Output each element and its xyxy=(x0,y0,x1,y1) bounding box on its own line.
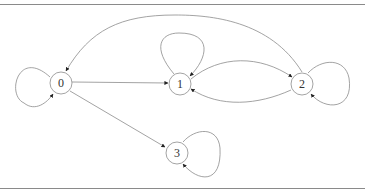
edge-0-0 xyxy=(16,68,53,107)
node-1-label: 1 xyxy=(177,77,183,91)
node-2-label: 2 xyxy=(299,77,305,91)
node-3: 3 xyxy=(166,142,188,164)
node-1: 1 xyxy=(169,73,191,95)
node-3-label: 3 xyxy=(174,146,180,160)
state-graph: 0 1 2 3 xyxy=(0,0,365,194)
edge-2-2 xyxy=(308,62,350,105)
edge-0-3 xyxy=(70,91,165,147)
node-2: 2 xyxy=(291,73,313,95)
edge-0-1 xyxy=(72,82,168,83)
edge-3-3 xyxy=(183,131,220,176)
edge-1-2 xyxy=(191,61,292,79)
node-0: 0 xyxy=(50,72,72,94)
node-0-label: 0 xyxy=(58,76,64,90)
edge-2-0 xyxy=(66,15,302,72)
edge-2-1 xyxy=(191,89,291,102)
edge-1-1 xyxy=(161,33,204,76)
